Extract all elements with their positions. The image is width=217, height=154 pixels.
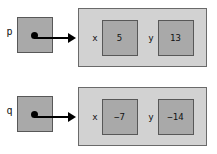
pointer-struct-diagram: p x 5 y 13: [0, 0, 217, 154]
field-cell: −7: [102, 99, 138, 135]
pointer-label-p: p: [3, 26, 16, 38]
struct-fields-p: x 5 y 13: [79, 9, 206, 66]
struct-field-y: y −14: [148, 99, 194, 135]
struct-field-y: y 13: [148, 20, 194, 56]
pointer-arrow-icon: [34, 115, 76, 119]
field-value-label: 13: [170, 33, 181, 43]
arrow-shaft: [34, 37, 70, 39]
struct-box-q: x −7 y −14: [78, 87, 207, 146]
field-value-label: −14: [167, 112, 183, 122]
arrow-head-icon: [68, 33, 76, 43]
struct-field-x: x 5: [92, 20, 138, 56]
field-cell: −14: [158, 99, 194, 135]
diagram-row-p: p x 5 y 13: [0, 8, 217, 70]
pointer-cell-q: [17, 96, 53, 132]
diagram-row-q: q x −7 y −14: [0, 87, 217, 149]
arrow-head-icon: [68, 112, 76, 122]
field-name-label: x: [92, 112, 99, 122]
struct-box-p: x 5 y 13: [78, 8, 207, 67]
field-value-label: 5: [117, 33, 122, 43]
field-name-label: y: [148, 33, 155, 43]
field-name-label: y: [148, 112, 155, 122]
pointer-label-q: q: [3, 105, 16, 117]
struct-field-x: x −7: [92, 99, 138, 135]
field-cell: 13: [158, 20, 194, 56]
field-cell: 5: [102, 20, 138, 56]
pointer-cell-p: [17, 17, 53, 53]
struct-fields-q: x −7 y −14: [79, 88, 206, 145]
field-name-label: x: [92, 33, 99, 43]
pointer-arrow-icon: [34, 36, 76, 40]
arrow-shaft: [34, 116, 70, 118]
field-value-label: −7: [114, 112, 125, 122]
